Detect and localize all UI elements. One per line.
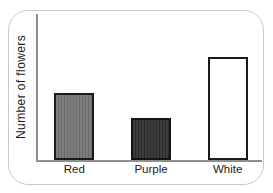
bar-white — [208, 57, 248, 160]
bar-chart-figure: Number of flowers RedPurpleWhite — [0, 0, 273, 193]
y-axis-line — [36, 14, 38, 160]
category-label-white: White — [196, 163, 260, 175]
category-label-purple: Purple — [119, 163, 183, 175]
bar-purple — [131, 118, 171, 160]
category-label-red: Red — [42, 163, 106, 175]
bar-red — [54, 93, 94, 160]
x-axis-line — [36, 160, 262, 162]
y-axis-label: Number of flowers — [13, 14, 29, 160]
